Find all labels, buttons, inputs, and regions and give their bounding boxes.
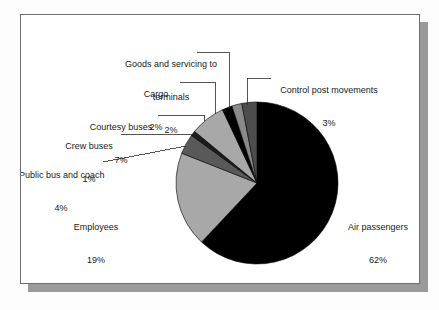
pie-label-air-name: Air passengers xyxy=(339,222,417,233)
pie-label-cargo-name: Cargo xyxy=(133,89,179,100)
pie-label-employees-name: Employees xyxy=(61,222,131,233)
pie-label-employees-percent: 19% xyxy=(61,255,131,266)
pie-label-employees: Employees 19% xyxy=(61,200,131,284)
leader-line-control-post xyxy=(247,78,271,105)
pie-label-control-post-percent: 3% xyxy=(271,118,387,129)
pie-label-control-post-name: Control post movements xyxy=(271,85,387,96)
pie-label-air-passengers: Air passengers 62% xyxy=(339,200,417,284)
pie-label-control-post-movements: Control post movements 3% xyxy=(271,63,387,151)
pie-label-air-percent: 62% xyxy=(339,255,417,266)
pie-label-public-bus-name: Public bus and coach xyxy=(20,170,103,181)
chart-panel: Goods and servicing to terminals 2% Carg… xyxy=(20,14,420,284)
figure-canvas: Goods and servicing to terminals 2% Carg… xyxy=(0,0,439,310)
